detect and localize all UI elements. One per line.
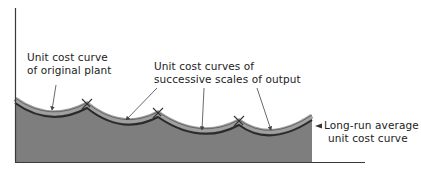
label-long-run-average-line2: unit cost curve	[324, 132, 419, 145]
cost-curve-diagram	[0, 0, 421, 175]
label-original-plant-line2: of original plant	[27, 64, 112, 77]
label-long-run-average-line1: Long-run average	[324, 119, 419, 132]
label-original-plant-line1: Unit cost curve	[27, 51, 112, 64]
label-successive-scales-line2: successive scales of output	[154, 73, 301, 86]
label-successive-scales: Unit cost curves of successive scales of…	[154, 60, 301, 86]
label-long-run-average: Long-run average unit cost curve	[324, 119, 419, 145]
label-original-plant: Unit cost curve of original plant	[27, 51, 112, 77]
label-successive-scales-line1: Unit cost curves of	[154, 60, 301, 73]
long-run-pointer-icon	[315, 124, 322, 129]
